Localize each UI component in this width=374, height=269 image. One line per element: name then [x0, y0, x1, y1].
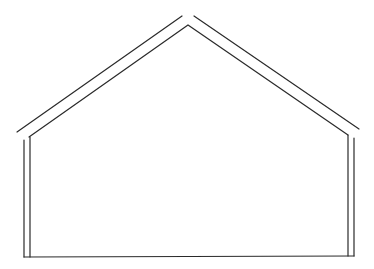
roof-inner-line	[29, 25, 348, 137]
roof-outer-left-line	[17, 16, 182, 132]
floor-line	[24, 256, 354, 257]
roof-outer-right-line	[194, 16, 359, 129]
house-outline-drawing	[0, 0, 374, 269]
